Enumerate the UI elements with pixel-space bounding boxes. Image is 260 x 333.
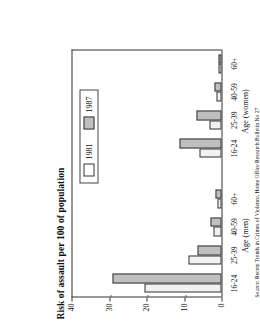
rotated-chart-stage: Risk of assault per 100 of population 01… <box>50 0 222 333</box>
bar-1987-25-39 <box>198 245 222 255</box>
bar-1981-16-24 <box>200 148 221 158</box>
value-tick-mark <box>109 297 110 301</box>
bar-1987-16-24 <box>179 138 221 148</box>
bar-1987-25-39 <box>197 110 221 120</box>
legend: 1981 1987 <box>80 89 99 183</box>
legend-swatch-1987-icon <box>84 116 95 129</box>
bar-1981-16-24 <box>145 283 221 293</box>
value-tick-label: 30 <box>105 303 114 311</box>
bar-1981-40-59 <box>216 91 221 101</box>
chart-figure: Risk of assault per 100 of population 01… <box>50 0 222 333</box>
bar-1987-60+ <box>218 54 221 64</box>
bar-1987-40-59 <box>210 217 221 227</box>
legend-item-1987: 1987 <box>84 96 95 129</box>
legend-label-1987: 1987 <box>85 96 94 112</box>
value-tick-mark <box>72 297 73 301</box>
value-tick-label: 40 <box>67 303 76 311</box>
value-tick-label: 10 <box>180 303 189 311</box>
bar-1981-25-39 <box>188 255 221 265</box>
bar-1981-25-39 <box>210 120 222 130</box>
legend-swatch-1981-icon <box>84 163 95 176</box>
bar-1987-16-24 <box>113 273 221 283</box>
value-tick-mark <box>147 297 148 301</box>
chart-title: Risk of assault per 100 of population <box>56 167 66 319</box>
value-tick-label: 0 <box>217 303 221 307</box>
bar-1981-40-59 <box>213 226 221 236</box>
bar-1981-60+ <box>219 63 221 73</box>
value-tick-label: 20 <box>142 303 151 311</box>
value-tick-mark <box>184 297 185 301</box>
bar-1987-40-59 <box>215 82 221 92</box>
legend-label-1981: 1981 <box>85 143 94 159</box>
bar-1987-60+ <box>216 189 222 199</box>
bar-1981-60+ <box>218 198 221 208</box>
legend-item-1981: 1981 <box>84 143 95 176</box>
